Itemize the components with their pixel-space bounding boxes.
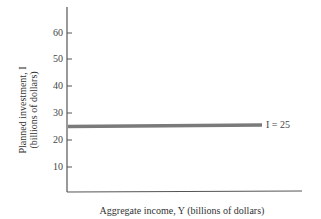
- ytick-30: 30: [53, 107, 63, 118]
- svg-text:(billions of dollars): (billions of dollars): [28, 71, 40, 148]
- ytick-60: 60: [53, 27, 63, 38]
- ytick-20: 20: [53, 134, 63, 145]
- svg-text:Planned investment, I: Planned investment, I: [17, 67, 28, 154]
- y-tick-labels: 60 50 40 30 20 10: [53, 27, 63, 172]
- x-axis-title: Aggregate income, Y (billions of dollars…: [100, 205, 265, 217]
- ytick-50: 50: [53, 53, 63, 64]
- y-axis-title: Planned investment, I (billions of dolla…: [17, 67, 40, 154]
- x-axis: [67, 191, 302, 192]
- investment-line: [68, 125, 262, 127]
- ytick-40: 40: [53, 80, 63, 91]
- chart: 60 50 40 30 20 10 I = 25 Planned investm…: [0, 0, 321, 219]
- y-ticks: [67, 33, 72, 167]
- line-annotation: I = 25: [266, 119, 290, 130]
- ytick-10: 10: [53, 161, 63, 172]
